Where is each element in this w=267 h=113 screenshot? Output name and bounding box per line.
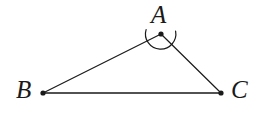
vertex-dot-A bbox=[158, 31, 163, 36]
segment-AB bbox=[43, 34, 161, 93]
triangle-diagram-svg bbox=[0, 0, 267, 113]
segment-AC bbox=[161, 34, 221, 93]
geometry-figure: A B C bbox=[0, 0, 267, 113]
vertex-label-a: A bbox=[151, 2, 166, 27]
vertex-label-b: B bbox=[16, 77, 31, 102]
vertex-dot-B bbox=[40, 90, 45, 95]
vertex-dot-C bbox=[218, 90, 223, 95]
vertex-label-c: C bbox=[231, 77, 248, 102]
